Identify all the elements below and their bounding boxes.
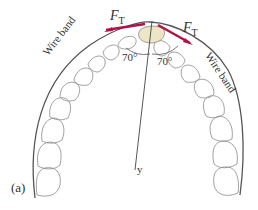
arrowhead-right-icon (183, 38, 193, 45)
y-axis-line (135, 21, 152, 170)
arrowhead-left-icon (104, 27, 113, 32)
force-label-left: FT (110, 8, 125, 26)
teeth-left (36, 45, 119, 196)
panel-label: (a) (11, 180, 25, 196)
angle-label-right: 70° (157, 55, 172, 67)
dental-arch-diagram (0, 0, 258, 210)
axis-label-y: y (137, 163, 143, 175)
angle-label-left: 70° (122, 51, 137, 63)
force-label-right: FT (183, 20, 198, 38)
tooth-incisor-left (118, 36, 136, 49)
